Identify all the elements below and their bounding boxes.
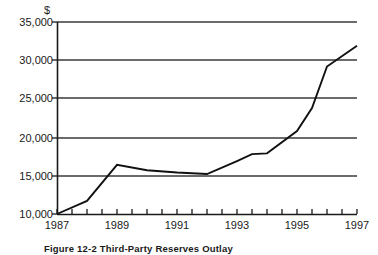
figure-caption-clip: Figure 12-2 Third-Party Reserves Outlay (0, 243, 378, 255)
x-axis-tick-label-1997: 1997 (345, 219, 369, 231)
y-axis-tick-label-30000: 30,000 (19, 54, 53, 66)
y-axis-tick-label-15000: 15,000 (19, 170, 53, 182)
currency-unit-label: $ (44, 4, 50, 16)
y-axis-tick-label-35000: 35,000 (19, 16, 53, 28)
y-axis-tick-label-25000: 25,000 (19, 92, 53, 104)
x-axis-tick-label-1987: 1987 (45, 219, 69, 231)
figure-container: $ 35,000 30,000 25,000 20,000 15,000 10,… (0, 0, 378, 255)
x-axis-tick-label-1989: 1989 (105, 219, 129, 231)
x-axis-tick-label-1991: 1991 (165, 219, 189, 231)
x-axis-tick-label-1993: 1993 (225, 219, 249, 231)
line-chart: $ 35,000 30,000 25,000 20,000 15,000 10,… (0, 0, 378, 255)
y-axis-tick-label-20000: 20,000 (19, 132, 53, 144)
figure-caption: Figure 12-2 Third-Party Reserves Outlay (44, 243, 374, 254)
x-axis-tickmarks (57, 209, 357, 214)
x-axis-tick-label-1995: 1995 (285, 219, 309, 231)
data-series-line (57, 46, 357, 214)
